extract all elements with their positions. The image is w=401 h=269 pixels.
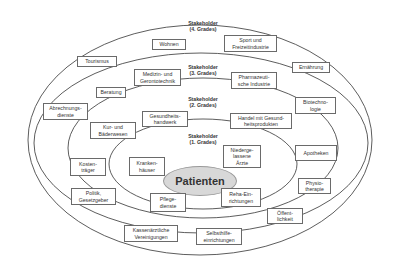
box-tourismus: Tourismus: [77, 56, 117, 67]
box-gesundheitshandwerk: Gesundheits- handwerk: [142, 111, 188, 127]
box-politik: Politik, Gesetzgeber: [71, 188, 116, 205]
box-pflegedienste: Pflege- dienste: [150, 193, 186, 212]
box-pharma: Pharmazeuti- sche Industrie: [231, 72, 277, 89]
box-biotech: Biotechno- logie: [295, 97, 336, 114]
box-abrechnung: Abrechnungs- dienste: [43, 103, 88, 120]
ring-2-label: Stakeholder (2. Grades): [178, 96, 228, 108]
ring-3-label: Stakeholder (3. Grades): [178, 64, 228, 76]
box-oeffentlichkeit: Öffent- lichkeit: [267, 208, 303, 224]
box-kvs: Kassenärztliche Vereinigungen: [124, 225, 178, 242]
box-medizintechnik: Medizin- und Gerontotechnik: [134, 69, 181, 86]
box-apotheken: Apotheken: [295, 145, 337, 161]
box-ernaehrung: Ernährung: [292, 62, 330, 73]
box-aerzte: Niederge- lassene Ärzte: [223, 145, 261, 168]
box-reha: Reha-Ein- richtungen: [221, 188, 261, 207]
box-selbsthilfe: Selbsthilfe- einrichtungen: [196, 228, 242, 245]
box-physiotherapie: Physio- therapie: [298, 178, 331, 194]
box-kostentraeger: Kosten- träger: [70, 158, 106, 176]
box-krankenhaeuser: Kranken- häuser: [129, 157, 165, 176]
box-sport: Sport und Freizeitindustrie: [224, 35, 277, 52]
box-wohnen: Wohnen: [152, 39, 186, 50]
box-beratung: Beratung: [96, 87, 126, 98]
box-kur: Kur- und Bäderwesen: [90, 122, 136, 139]
ring-1-label: Stakeholder (1. Grades): [178, 133, 228, 145]
ring-4-label: Stakeholder (4. Grades): [178, 20, 228, 32]
box-handel: Handel mit Gesund- heitsprodukten: [230, 113, 292, 129]
